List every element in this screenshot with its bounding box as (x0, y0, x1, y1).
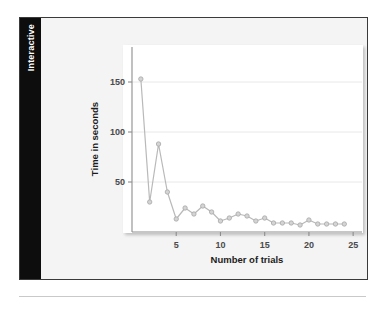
svg-text:15: 15 (260, 240, 270, 250)
data-points (139, 77, 347, 227)
interactive-side-tab: Interactive (20, 18, 41, 279)
data-line (141, 79, 344, 225)
gridlines (132, 82, 362, 182)
figure-card: Interactive 50100150 510152025 Time in s… (19, 17, 368, 280)
x-tick-labels: 510152025 (174, 240, 358, 250)
y-tick-labels: 50100150 (110, 77, 125, 187)
x-axis-ticks (176, 232, 353, 236)
svg-text:25: 25 (348, 240, 358, 250)
side-tab-label: Interactive (25, 24, 37, 71)
line-chart: 50100150 510152025 Time in seconds Numbe… (41, 18, 369, 281)
x-axis-title: Number of trials (211, 254, 284, 265)
svg-text:5: 5 (174, 240, 179, 250)
svg-text:20: 20 (304, 240, 314, 250)
section-divider (19, 296, 366, 297)
svg-text:10: 10 (215, 240, 225, 250)
svg-text:50: 50 (115, 177, 125, 187)
svg-text:150: 150 (110, 77, 125, 87)
svg-text:100: 100 (110, 127, 125, 137)
y-axis-ticks (128, 82, 132, 182)
chart-area: 50100150 510152025 Time in seconds Numbe… (41, 18, 367, 279)
y-axis-title: Time in seconds (89, 102, 100, 176)
